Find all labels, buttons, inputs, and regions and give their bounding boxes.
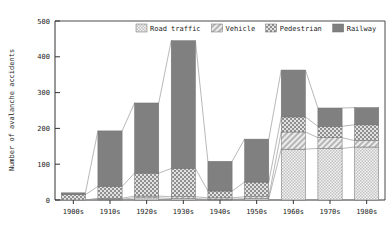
legend-label-pedestrian: Pedestrian [280, 25, 322, 33]
bar-segment-road-traffic[interactable] [135, 198, 159, 200]
bar-1980s[interactable] [355, 108, 379, 200]
bar-1930s[interactable] [171, 41, 195, 200]
bar-segment-railway[interactable] [98, 131, 122, 186]
bar-segment-pedestrian[interactable] [318, 126, 342, 137]
bar-segment-railway[interactable] [61, 193, 85, 195]
bar-segment-road-traffic[interactable] [281, 149, 305, 200]
bar-segment-railway[interactable] [208, 161, 232, 191]
road-traffic-swatch [136, 24, 147, 32]
y-tick-label: 300 [37, 89, 50, 97]
bar-segment-road-traffic[interactable] [355, 147, 379, 200]
bar-segment-railway[interactable] [318, 108, 342, 126]
bar-1940s[interactable] [208, 161, 232, 200]
y-tick-label: 500 [37, 18, 50, 26]
y-tick-label: 200 [37, 125, 50, 133]
bar-1970s[interactable] [318, 108, 342, 200]
bar-segment-vehicle[interactable] [281, 132, 305, 149]
bar-segment-vehicle[interactable] [171, 197, 195, 199]
bar-segment-railway[interactable] [171, 41, 195, 169]
x-tick-label: 1910s [99, 208, 120, 216]
x-tick-label: 1960s [283, 208, 304, 216]
x-tick-label: 1920s [136, 208, 157, 216]
y-tick-label: 400 [37, 53, 50, 61]
bar-1900s[interactable] [61, 193, 85, 200]
bar-segment-pedestrian[interactable] [208, 191, 232, 198]
bar-segment-railway[interactable] [135, 103, 159, 173]
legend-label-vehicle: Vehicle [226, 25, 256, 33]
bar-segment-pedestrian[interactable] [245, 182, 269, 197]
x-tick-label: 1940s [209, 208, 230, 216]
bar-1920s[interactable] [135, 103, 159, 200]
bar-segment-pedestrian[interactable] [135, 173, 159, 196]
avalanche-accidents-chart: 0100200300400500 1900s1910s1920s1930s194… [0, 0, 391, 235]
y-tick-label: 0 [46, 197, 50, 205]
x-tick-label: 1980s [356, 208, 377, 216]
legend-label-railway: Railway [347, 25, 377, 33]
bar-segment-pedestrian[interactable] [171, 168, 195, 196]
x-axis-ticks: 1900s1910s1920s1930s1940s1950s1960s1970s… [63, 200, 377, 216]
bar-segment-vehicle[interactable] [355, 141, 379, 147]
bar-segment-vehicle[interactable] [245, 197, 269, 199]
bar-1910s[interactable] [98, 131, 122, 200]
bar-segment-vehicle[interactable] [135, 196, 159, 198]
railway-swatch [333, 24, 344, 32]
bar-segment-pedestrian[interactable] [98, 186, 122, 198]
x-tick-label: 1930s [173, 208, 194, 216]
pedestrian-swatch [266, 24, 277, 32]
bar-group [61, 41, 379, 200]
y-axis-title: Number of avalanche accidents [8, 49, 16, 171]
bar-1960s[interactable] [281, 70, 305, 200]
x-tick-label: 1950s [246, 208, 267, 216]
chart-svg: 0100200300400500 1900s1910s1920s1930s194… [0, 0, 391, 235]
y-axis-ticks: 0100200300400500 [37, 18, 60, 205]
legend: Road trafficVehiclePedestrianRailway [136, 24, 376, 33]
bar-segment-road-traffic[interactable] [318, 148, 342, 200]
bar-segment-pedestrian[interactable] [355, 125, 379, 141]
bar-segment-railway[interactable] [355, 108, 379, 125]
bar-1950s[interactable] [245, 139, 269, 200]
x-tick-label: 1970s [319, 208, 340, 216]
bar-segment-pedestrian[interactable] [61, 195, 85, 200]
legend-label-road-traffic: Road traffic [150, 25, 201, 33]
x-tick-label: 1900s [63, 208, 84, 216]
vehicle-swatch [212, 24, 223, 32]
bar-segment-railway[interactable] [281, 70, 305, 117]
bar-segment-pedestrian[interactable] [281, 117, 305, 132]
bar-segment-vehicle[interactable] [318, 138, 342, 149]
y-tick-label: 100 [37, 161, 50, 169]
bar-segment-railway[interactable] [245, 139, 269, 182]
